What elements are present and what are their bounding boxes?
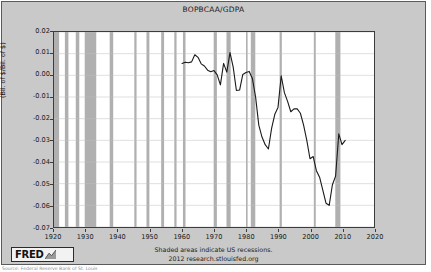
x-tick-mark	[214, 229, 215, 232]
x-tick-mark	[278, 229, 279, 232]
x-tick-mark	[85, 229, 86, 232]
x-tick-mark	[246, 229, 247, 232]
recession-band	[146, 32, 149, 227]
fred-chart-glyph	[45, 250, 56, 259]
x-tick-label: 1940	[102, 234, 132, 241]
x-tick-mark	[150, 229, 151, 232]
x-tick-label: 1920	[38, 234, 68, 241]
y-tick-label: -0.04	[4, 159, 50, 166]
x-tick-label: 2000	[296, 234, 326, 241]
y-tick-label: 0.02	[4, 28, 50, 35]
x-tick-label: 1990	[263, 234, 293, 241]
y-tick-label: 0.00	[4, 71, 50, 78]
x-tick-mark	[311, 229, 312, 232]
recession-band	[134, 32, 136, 227]
recession-band	[85, 32, 97, 227]
x-tick-label: 1970	[199, 234, 229, 241]
x-tick-mark	[375, 229, 376, 232]
recession-band	[246, 32, 248, 227]
y-tick-label: -0.03	[4, 137, 50, 144]
y-tick-label: 0.01	[4, 49, 50, 56]
y-tick-label: -0.01	[4, 93, 50, 100]
x-tick-mark	[343, 229, 344, 232]
x-tick-mark	[117, 229, 118, 232]
recession-band	[214, 32, 217, 227]
plot-area	[53, 31, 375, 228]
recession-band	[54, 32, 59, 227]
recession-band	[314, 32, 316, 227]
recession-band	[280, 32, 282, 227]
recession-band	[335, 32, 340, 227]
y-tick-label: -0.02	[4, 115, 50, 122]
x-tick-label: 1980	[231, 234, 261, 241]
screenshot-root: BOPBCAA/GDPA (Bil. of $/Bil. of $) 0.020…	[0, 0, 431, 272]
chart-title: BOPBCAA/GDPA	[2, 5, 425, 14]
recession-bands	[54, 32, 340, 227]
x-tick-mark	[182, 229, 183, 232]
x-tick-label: 1960	[167, 234, 197, 241]
x-tick-mark	[53, 229, 54, 232]
y-tick-label: -0.07	[4, 225, 50, 232]
image-caption: Source: Federal Reserve Bank of St. Loui…	[2, 266, 242, 272]
x-tick-label: 2010	[328, 234, 358, 241]
y-axis-ticks: 0.020.010.00-0.01-0.02-0.03-0.04-0.05-0.…	[2, 31, 50, 228]
chart-svg	[54, 32, 374, 227]
recession-band	[65, 32, 69, 227]
recession-band	[174, 32, 176, 227]
recession-band	[183, 32, 186, 227]
x-tick-label: 1950	[135, 234, 165, 241]
recession-band	[161, 32, 164, 227]
fred-wordmark: FRED	[15, 250, 43, 260]
fred-chart-card: BOPBCAA/GDPA (Bil. of $/Bil. of $) 0.020…	[1, 1, 426, 265]
recession-band	[251, 32, 255, 227]
fred-logo[interactable]: FRED	[11, 247, 74, 262]
x-axis-ticks: 1920193019401950196019701980199020002010…	[53, 229, 375, 245]
recession-band	[76, 32, 80, 227]
x-tick-label: 1930	[70, 234, 100, 241]
x-tick-label: 2020	[360, 234, 390, 241]
y-tick-label: -0.05	[4, 181, 50, 188]
y-tick-label: -0.06	[4, 203, 50, 210]
recession-band	[110, 32, 114, 227]
